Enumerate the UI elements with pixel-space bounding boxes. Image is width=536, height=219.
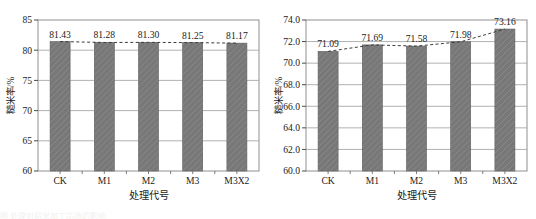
bar-value-label: 81.28 (94, 29, 116, 40)
y-tick-label: 74.0 (283, 14, 300, 25)
bar-chart-right: 60.062.064.066.068.070.072.074.071.0971.… (268, 0, 536, 219)
plot-group: 60.062.064.066.068.070.072.074.071.0971.… (273, 14, 527, 201)
y-tick-label: 80 (22, 45, 32, 56)
x-category-label: M3 (454, 175, 468, 186)
y-axis-title: 糙米率/% (273, 77, 284, 115)
y-tick-label: 65 (22, 135, 32, 146)
bar-chart-left: 60657075808581.4381.2881.3081.2581.17CKM… (0, 0, 268, 219)
bar-value-label: 81.17 (226, 30, 248, 41)
bar-value-label: 81.43 (49, 29, 71, 40)
y-tick-label: 62.0 (283, 144, 300, 155)
bar-value-label: 81.25 (182, 30, 204, 41)
y-tick-label: 68.0 (283, 79, 300, 90)
y-tick-label: 66.0 (283, 101, 300, 112)
plot-group: 60657075808581.4381.2881.3081.2581.17CKM… (5, 14, 259, 201)
x-axis-title: 处理代号 (397, 190, 437, 201)
x-category-label: M3X2 (224, 175, 249, 186)
figure-caption: 图 处理对稻米加工品质的影响 (0, 210, 536, 219)
figure-container: 60657075808581.4381.2881.3081.2581.17CKM… (0, 0, 536, 219)
x-category-label: CK (321, 175, 334, 186)
x-category-label: CK (53, 175, 66, 186)
y-tick-label: 60 (22, 165, 32, 176)
y-tick-label: 72.0 (283, 36, 300, 47)
bar-value-label: 81.30 (138, 29, 160, 40)
x-axis-title: 处理代号 (129, 190, 169, 201)
y-tick-label: 70 (22, 105, 32, 116)
bar-value-label: 73.16 (494, 16, 516, 27)
bar-value-label: 71.98 (450, 29, 472, 40)
x-category-label: M2 (142, 175, 156, 186)
y-tick-label: 64.0 (283, 122, 300, 133)
bar-value-label: 71.69 (362, 32, 384, 43)
chart-panel-left: 60657075808581.4381.2881.3081.2581.17CKM… (0, 0, 268, 219)
x-category-label: M1 (366, 175, 380, 186)
y-tick-label: 75 (22, 75, 32, 86)
bar-value-label: 71.58 (406, 33, 428, 44)
y-tick-label: 70.0 (283, 57, 300, 68)
bar (318, 51, 338, 171)
x-category-label: M3 (186, 175, 200, 186)
bar-value-label: 71.09 (317, 38, 339, 49)
x-category-label: M2 (410, 175, 424, 186)
x-category-label: M1 (98, 175, 112, 186)
y-tick-label: 60.0 (283, 165, 300, 176)
y-axis-title: 糙米率/% (5, 77, 16, 115)
y-tick-label: 85 (22, 14, 32, 25)
chart-panel-right: 60.062.064.066.068.070.072.074.071.0971.… (268, 0, 536, 219)
x-category-label: M3X2 (492, 175, 517, 186)
